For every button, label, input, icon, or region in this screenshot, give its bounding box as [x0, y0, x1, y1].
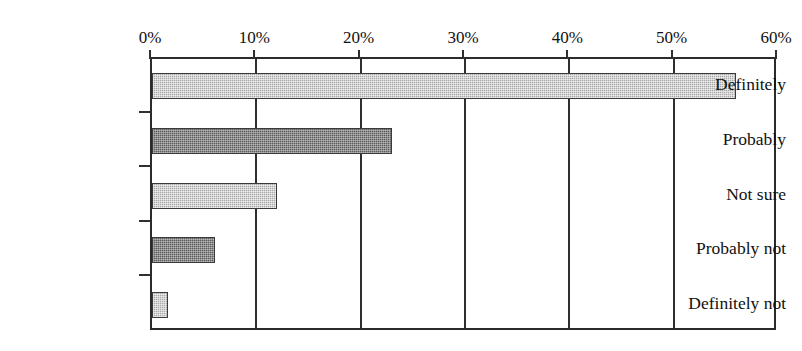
x-tick-label-3: 30% — [447, 28, 478, 48]
x-tick-mark-2 — [358, 50, 360, 59]
x-tick-label-5: 50% — [656, 28, 687, 48]
y-axis-label-not-sure: Not sure — [658, 184, 802, 204]
y-tick-mark-4 — [139, 274, 150, 276]
x-tick-mark-6 — [775, 50, 777, 59]
y-axis-label-definitely: Definitely — [658, 74, 802, 94]
x-tick-mark-3 — [462, 50, 464, 59]
y-axis-label-probably: Probably — [658, 129, 802, 149]
x-tick-label-6: 60% — [760, 28, 791, 48]
bar-chart: · · · 0%10%20%30%40%50%60% DefinitelyPro… — [0, 0, 802, 351]
gridline-2 — [360, 59, 362, 328]
x-tick-mark-1 — [253, 50, 255, 59]
x-tick-label-0: 0% — [139, 28, 162, 48]
y-tick-mark-1 — [139, 111, 150, 113]
x-axis-tick-labels: 0%10%20%30%40%50%60% — [0, 28, 802, 48]
gridline-3 — [464, 59, 466, 328]
x-tick-label-1: 10% — [239, 28, 270, 48]
bar-probably-not — [152, 237, 215, 263]
bar-not-sure — [152, 183, 277, 209]
bar-definitely-not — [152, 292, 168, 318]
gridline-4 — [568, 59, 570, 328]
x-tick-label-4: 40% — [552, 28, 583, 48]
x-tick-mark-0 — [149, 50, 151, 59]
bar-probably — [152, 128, 392, 154]
y-axis-label-probably-not: Probably not — [658, 238, 802, 258]
x-tick-mark-4 — [566, 50, 568, 59]
y-tick-mark-2 — [139, 165, 150, 167]
bar-definitely — [152, 73, 736, 99]
y-tick-mark-3 — [139, 220, 150, 222]
clipped-text-sliver: · · · — [0, 0, 802, 5]
y-axis-label-definitely-not: Definitely not — [658, 293, 802, 313]
x-tick-mark-5 — [671, 50, 673, 59]
x-tick-label-2: 20% — [343, 28, 374, 48]
